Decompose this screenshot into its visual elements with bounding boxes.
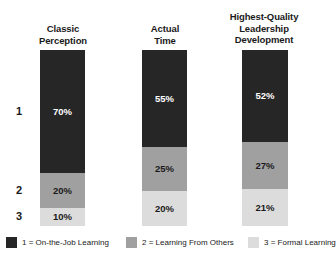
segment-value-label: 20%: [53, 186, 72, 196]
stacked-bar: 55% 25% 20%: [142, 50, 187, 226]
column-title-line: Actual: [123, 23, 207, 35]
legend-label: 3 = Formal Learning: [264, 237, 336, 248]
segment-value-label: 10%: [53, 212, 72, 222]
bar-segment-2[interactable]: 27%: [242, 142, 288, 190]
legend-label: 2 = Learning From Others: [142, 237, 234, 248]
legend-item-learning-from-others[interactable]: 2 = Learning From Others: [126, 236, 234, 249]
legend-swatch-icon: [126, 237, 137, 248]
legend-swatch-icon: [248, 237, 259, 248]
chart-column-actual-time: Actual Time 55% 25% 20%: [123, 0, 207, 232]
segment-value-label: 70%: [53, 107, 72, 117]
column-title-line: Time: [123, 35, 207, 47]
bar-segment-3[interactable]: 20%: [142, 191, 187, 226]
column-title: Actual Time: [123, 23, 207, 46]
bar-segment-1[interactable]: 55%: [142, 50, 187, 147]
bar-segment-2[interactable]: 20%: [40, 173, 85, 208]
column-title-line: Development: [222, 34, 306, 46]
bar-segment-3[interactable]: 21%: [242, 189, 288, 226]
segment-value-label: 21%: [255, 203, 274, 213]
stacked-bar: 70% 20% 10%: [40, 50, 85, 226]
stacked-bar: 52% 27% 21%: [242, 50, 288, 226]
legend-item-on-the-job-learning[interactable]: 1 = On-the-Job Learning: [6, 236, 109, 249]
chart-column-classic-perception: Classic Perception 70% 20% 10%: [21, 0, 105, 232]
column-title: Classic Perception: [21, 23, 105, 46]
segment-value-label: 55%: [155, 94, 174, 104]
column-title-line: Classic: [21, 23, 105, 35]
bar-segment-1[interactable]: 70%: [40, 50, 85, 173]
legend-swatch-icon: [6, 237, 17, 248]
column-title: Highest-Quality Leadership Development: [222, 11, 306, 46]
bar-segment-1[interactable]: 52%: [242, 50, 288, 142]
column-title-line: Perception: [21, 35, 105, 47]
legend-item-formal-learning[interactable]: 3 = Formal Learning: [248, 236, 336, 249]
column-title-line: Leadership: [222, 23, 306, 35]
column-title-line: Highest-Quality: [222, 11, 306, 23]
chart-column-highest-quality-leadership-development: Highest-Quality Leadership Development 5…: [222, 0, 306, 232]
segment-value-label: 27%: [255, 161, 274, 171]
bar-segment-2[interactable]: 25%: [142, 147, 187, 191]
legend-label: 1 = On-the-Job Learning: [22, 237, 109, 248]
segment-value-label: 52%: [255, 91, 274, 101]
segment-value-label: 20%: [155, 204, 174, 214]
segment-value-label: 25%: [155, 164, 174, 174]
bar-segment-3[interactable]: 10%: [40, 208, 85, 226]
chart-legend: 1 = On-the-Job Learning 2 = Learning Fro…: [0, 236, 332, 252]
